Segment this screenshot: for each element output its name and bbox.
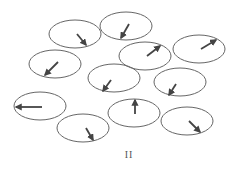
domains-group [14,12,225,142]
domain-ellipse-group [100,12,152,40]
domain-ellipse [154,68,206,96]
arrow-down-right-icon [77,34,86,45]
arrow-down-left-icon [121,24,129,38]
domain-ellipse-group [173,35,225,63]
domain-ellipse-group [108,99,160,127]
figure-label: II [119,149,139,160]
domain-ellipse-group [57,114,109,142]
domain-ellipse [49,20,101,48]
domain-ellipse [14,92,66,120]
arrow-down-left-icon [169,84,176,95]
domain-ellipse [173,35,225,63]
domain-ellipse [88,64,140,92]
domain-ellipse [161,107,213,135]
domain-ellipse-group [14,92,66,120]
arrow-down-left-icon [45,62,58,75]
arrow-down-right-icon [86,128,93,140]
arrow-down-right-icon [189,121,200,132]
domain-ellipse [57,114,109,142]
domain-ellipse-group [29,50,81,78]
domain-ellipse-group [154,68,206,96]
domain-ellipse-group [88,64,140,92]
arrow-down-left-icon [103,80,111,91]
arrow-up-right-icon [147,46,160,56]
domain-ellipse [100,12,152,40]
arrow-up-right-icon [201,40,216,49]
domain-ellipse-group [161,107,213,135]
domain-ellipse [108,99,160,127]
domain-diagram [0,0,238,170]
domain-ellipse-group [49,20,101,48]
